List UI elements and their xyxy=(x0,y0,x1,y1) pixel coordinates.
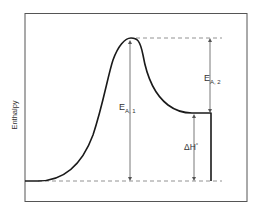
y-axis-label: Enthalpy xyxy=(10,100,19,129)
plot-frame xyxy=(25,14,247,202)
reaction-pathway-curve xyxy=(25,38,211,181)
ea1-label: EA, 1 xyxy=(119,102,136,114)
delta-h-label: ΔH° xyxy=(184,142,199,152)
ea2-label: EA, 2 xyxy=(204,73,221,85)
enthalpy-diagram: Enthalpy EA, 1 EA, 2 ΔH° xyxy=(0,0,256,213)
